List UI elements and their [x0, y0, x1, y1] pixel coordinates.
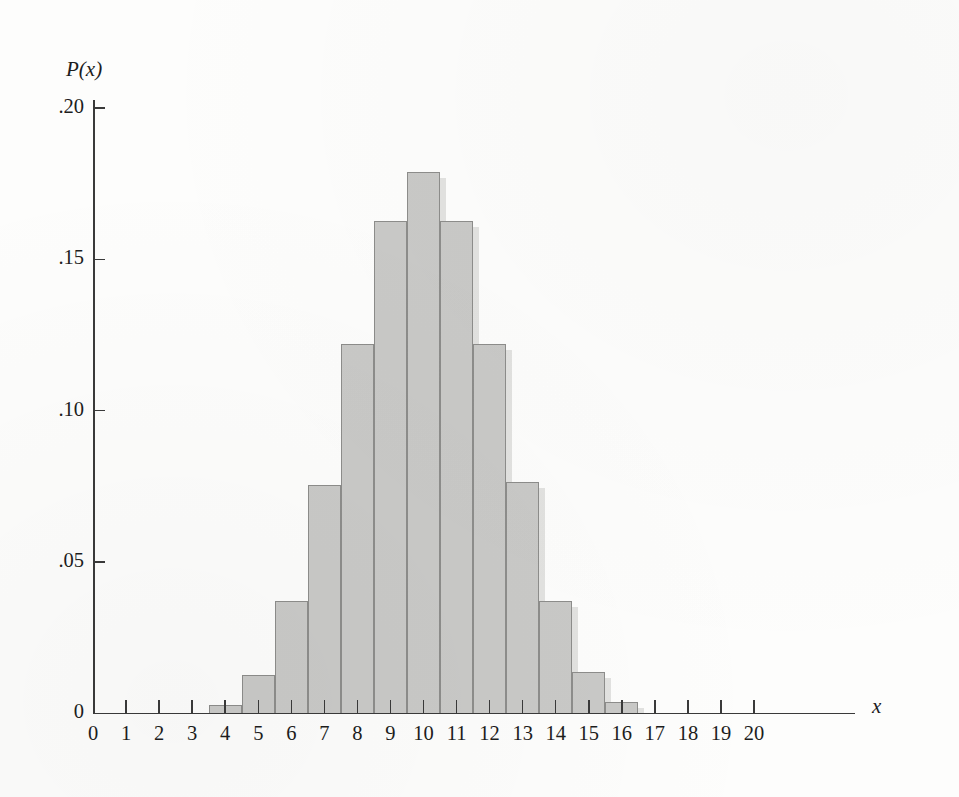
y-axis-tick-label: .05 — [58, 549, 84, 572]
x-axis-tick — [224, 700, 226, 713]
histogram-bar — [407, 172, 440, 713]
x-axis-tick — [621, 700, 623, 713]
x-axis-tick — [687, 700, 689, 713]
y-axis-tick-label: .15 — [58, 246, 84, 269]
y-axis-tick — [94, 107, 105, 109]
x-axis-tick — [555, 700, 557, 713]
histogram-bar — [341, 344, 374, 713]
x-axis-tick-label: 0 — [88, 722, 98, 745]
x-axis-tick — [125, 700, 127, 713]
x-axis-tick-label: 3 — [187, 722, 197, 745]
x-axis-tick-label: 13 — [512, 722, 533, 745]
x-axis-tick-label: 2 — [154, 722, 164, 745]
y-axis-tick-label: .10 — [58, 398, 84, 421]
x-axis-tick — [522, 700, 524, 713]
x-axis-tick-label: 7 — [319, 722, 329, 745]
x-axis-title: x — [872, 694, 881, 719]
y-axis-title: P(x) — [66, 57, 102, 82]
x-axis-tick — [357, 700, 359, 713]
y-axis-line — [93, 100, 95, 714]
y-axis-title-text: P(x) — [66, 57, 102, 81]
histogram-bar — [275, 601, 308, 713]
x-axis-tick-label: 18 — [678, 722, 699, 745]
x-axis-tick — [720, 700, 722, 713]
x-axis-tick — [191, 700, 193, 713]
x-axis-tick-label: 5 — [253, 722, 263, 745]
x-axis-tick — [654, 700, 656, 713]
x-axis-tick — [158, 700, 160, 713]
x-axis-tick — [588, 700, 590, 713]
x-axis-tick — [324, 700, 326, 713]
x-axis-tick — [291, 700, 293, 713]
y-axis-tick — [94, 410, 105, 412]
x-axis-tick — [258, 700, 260, 713]
x-axis-tick-label: 19 — [711, 722, 732, 745]
histogram-bar — [440, 221, 473, 713]
x-axis-tick — [456, 700, 458, 713]
x-axis-tick-label: 16 — [612, 722, 633, 745]
x-axis-tick-label: 17 — [645, 722, 666, 745]
histogram-plot: P(x) x 0.05.10.15.20 0123456789101112131… — [0, 0, 959, 797]
x-axis-tick-label: 20 — [744, 722, 765, 745]
histogram-bar — [506, 482, 539, 713]
x-axis-tick-label: 6 — [286, 722, 296, 745]
x-axis-tick-label: 4 — [220, 722, 230, 745]
y-axis-tick — [94, 561, 105, 563]
x-axis-tick-label: 1 — [121, 722, 131, 745]
x-axis-tick — [489, 700, 491, 713]
y-axis-tick-label: 0 — [74, 700, 84, 723]
x-axis-tick-label: 12 — [479, 722, 500, 745]
histogram-bar — [539, 601, 572, 713]
x-axis-tick — [423, 700, 425, 713]
histogram-bar — [374, 221, 407, 713]
histogram-bar — [308, 485, 341, 713]
x-axis-tick-label: 14 — [545, 722, 566, 745]
y-axis-tick — [94, 259, 105, 261]
figure-page: P(x) x 0.05.10.15.20 0123456789101112131… — [0, 0, 959, 797]
histogram-bar — [473, 344, 506, 713]
x-axis-tick-label: 11 — [447, 722, 467, 745]
x-axis-tick — [390, 700, 392, 713]
x-axis-tick — [753, 700, 755, 713]
x-axis-tick-label: 10 — [413, 722, 434, 745]
x-axis-tick-label: 8 — [352, 722, 362, 745]
x-axis-tick-label: 15 — [579, 722, 600, 745]
x-axis-tick-label: 9 — [385, 722, 395, 745]
y-axis-tick-label: .20 — [58, 95, 84, 118]
